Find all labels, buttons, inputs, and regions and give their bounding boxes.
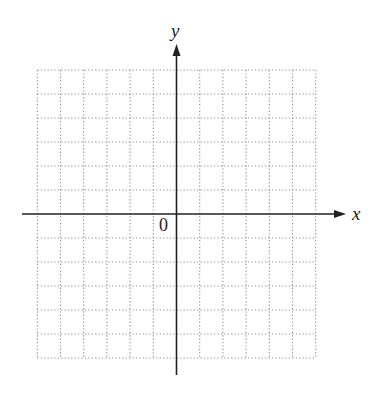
x-axis-arrowhead-icon	[334, 210, 346, 218]
coordinate-plane	[0, 0, 378, 397]
y-axis-arrowhead-icon	[173, 44, 181, 56]
y-axis-label: y	[171, 20, 179, 42]
origin-label: 0	[159, 215, 168, 236]
x-axis-label: x	[352, 203, 360, 225]
